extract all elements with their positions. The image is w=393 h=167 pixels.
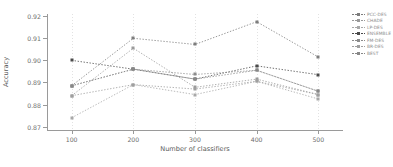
legend-swatch-icon	[352, 38, 365, 43]
data-point-best	[317, 90, 320, 93]
x-tick-label: 300	[189, 136, 201, 143]
data-point-br-des	[255, 80, 258, 83]
x-tick-label: 500	[312, 136, 324, 143]
data-point-best	[194, 78, 197, 81]
y-tick-label: 0.88	[27, 101, 41, 108]
legend-marker-icon	[357, 26, 360, 29]
legend-item-ensemble[interactable]: ENSEMBLE	[352, 31, 391, 37]
plot-area: 0.920.910.900.890.880.87 100200300400500	[47, 14, 343, 131]
y-tick-label: 0.90	[27, 57, 41, 64]
legend-marker-icon	[357, 19, 360, 22]
data-point-br-des	[132, 83, 135, 86]
data-point-pcc-des	[317, 56, 320, 59]
data-point-br-des	[194, 88, 197, 91]
legend-swatch-icon	[352, 44, 365, 49]
y-axis-title: Accuracy	[2, 57, 10, 87]
data-point-chade	[132, 47, 135, 50]
x-axis-title: Number of classifiers	[47, 145, 343, 153]
data-point-fm-des	[194, 73, 197, 76]
data-point-ensemble	[255, 64, 258, 67]
legend-item-best[interactable]: BEST	[352, 51, 391, 57]
data-point-pcc-des	[132, 37, 135, 40]
legend-swatch-icon	[352, 51, 365, 56]
legend-swatch-icon	[352, 12, 365, 17]
data-point-lp-des	[317, 97, 320, 100]
legend-swatch-icon	[352, 18, 365, 23]
legend-label: CHADE	[367, 18, 383, 23]
data-point-best	[255, 69, 258, 72]
legend-item-chade[interactable]: CHADE	[352, 18, 391, 24]
legend-label: LP-DES	[367, 25, 383, 30]
legend-label: FM-DES	[367, 38, 384, 43]
legend-label: BR-DES	[367, 44, 384, 49]
legend-marker-icon	[357, 45, 360, 48]
legend-item-lp-des[interactable]: LP-DES	[352, 24, 391, 30]
data-point-br-des	[317, 93, 320, 96]
series-line-ensemble	[72, 60, 319, 79]
data-point-br-des	[70, 94, 73, 97]
legend-marker-icon	[357, 39, 360, 42]
x-tick-label: 100	[66, 136, 78, 143]
y-tick-label: 0.91	[27, 35, 41, 42]
data-point-pcc-des	[255, 20, 258, 23]
legend-item-br-des[interactable]: BR-DES	[352, 44, 391, 50]
data-point-ensemble	[317, 73, 320, 76]
y-tick-label: 0.87	[27, 123, 41, 130]
legend-swatch-icon	[352, 31, 365, 36]
data-point-ensemble	[70, 59, 73, 62]
y-tick-label: 0.92	[27, 13, 41, 20]
legend-label: ENSEMBLE	[367, 31, 391, 36]
legend-item-pcc-des[interactable]: PCC-DES	[352, 11, 391, 17]
legend-label: BEST	[367, 51, 378, 56]
x-tick-label: 200	[127, 136, 139, 143]
legend-label: PCC-DES	[367, 12, 387, 17]
x-tick-label: 400	[251, 136, 263, 143]
legend: PCC-DESCHADELP-DESENSEMBLEFM-DESBR-DESBE…	[351, 10, 392, 58]
series-layer	[47, 14, 343, 131]
legend-marker-icon	[357, 32, 360, 35]
y-tick-label: 0.89	[27, 79, 41, 86]
legend-marker-icon	[357, 13, 360, 16]
series-line-pcc-des	[72, 22, 319, 86]
data-point-pcc-des	[194, 43, 197, 46]
data-point-best	[70, 84, 73, 87]
legend-swatch-icon	[352, 25, 365, 30]
data-point-lp-des	[194, 93, 197, 96]
legend-marker-icon	[357, 52, 360, 55]
chart-figure: 0.920.910.900.890.880.87 100200300400500…	[0, 0, 393, 167]
data-point-best	[132, 68, 135, 71]
data-point-lp-des	[70, 116, 73, 119]
legend-item-fm-des[interactable]: FM-DES	[352, 37, 391, 43]
